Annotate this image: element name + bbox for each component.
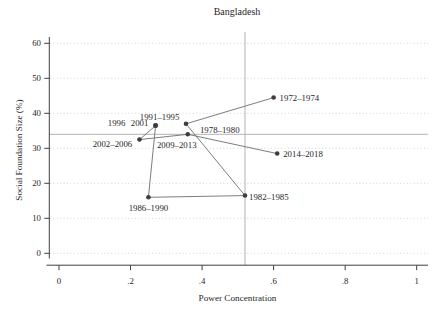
point-label-1982-1985: 1982–1985 [249,192,289,202]
x-tick-label-.2: .2 [127,276,134,286]
chart-figure: 01020304050600.2.4.6.811972–19741978–198… [0,0,435,315]
point-label-2002-2006: 2002–2006 [93,139,133,149]
data-point-1982-1985 [243,193,248,198]
x-tick-label-0: 0 [57,276,62,286]
data-point-1972-1974 [271,95,276,100]
point-label-1978-1980: 1978–1980 [200,125,240,135]
point-label-1972-1974: 1972–1974 [280,93,320,103]
data-point-2014-2018 [275,151,280,156]
y-tick-label-50: 50 [32,73,41,83]
point-label-1996: 1996 [108,118,126,128]
y-tick-label-40: 40 [32,108,41,118]
y-tick-label-0: 0 [37,248,42,258]
y-tick-label-10: 10 [32,213,41,223]
point-label-2009-2013: 2009–2013 [157,140,197,150]
data-point-1978-1980 [184,122,189,127]
point-label-2001: 2001 [131,118,149,128]
data-point-2009-2013 [185,132,190,137]
y-tick-label-60: 60 [32,38,41,48]
x-tick-label-.4: .4 [199,276,206,286]
bangladesh-scatter-chart: 01020304050600.2.4.6.811972–19741978–198… [0,0,435,315]
data-point-2001 [153,123,158,128]
x-axis-title: Power Concentration [199,293,277,303]
chart-title: Bangladesh [214,6,261,17]
x-tick-label-.6: .6 [270,276,277,286]
x-tick-label-.8: .8 [342,276,349,286]
point-label-1986-1990: 1986–1990 [129,203,169,213]
data-point-1986-1990 [146,195,151,200]
x-tick-label-1: 1 [414,276,418,286]
y-tick-label-30: 30 [32,143,41,153]
y-axis-title: Social Foundation Size (%) [14,99,24,200]
y-tick-label-20: 20 [32,178,41,188]
data-point-2002-2006 [137,137,142,142]
point-label-2014-2018: 2014–2018 [283,149,323,159]
